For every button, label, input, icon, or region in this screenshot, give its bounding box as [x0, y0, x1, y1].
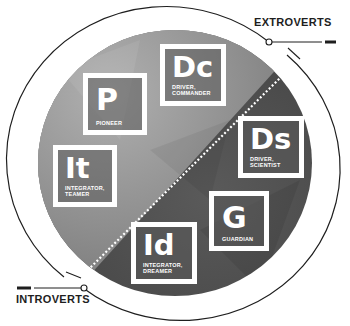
type-box-guardian[interactable]: G GUARDIAN	[209, 191, 269, 251]
type-name-line2: COMMANDER	[172, 90, 211, 96]
type-code: It	[65, 154, 90, 183]
extroverts-callout-bar	[325, 41, 336, 44]
type-box-pioneer[interactable]: P PIONEER	[83, 73, 147, 135]
type-code: Ds	[250, 125, 291, 154]
type-code: Id	[143, 231, 175, 260]
type-box-driver-commander[interactable]: Dc DRIVER, COMMANDER	[160, 44, 226, 106]
type-name-line2: DREAMER	[143, 268, 172, 274]
introverts-callout-dot	[81, 285, 87, 291]
type-box-integrator-dreamer[interactable]: Id INTEGRATOR, DREAMER	[131, 222, 197, 284]
type-name-line1: GUARDIAN	[222, 236, 253, 242]
type-box-integrator-teamer[interactable]: It INTEGRATOR, TEAMER	[53, 145, 117, 207]
extroverts-callout-dot	[266, 39, 272, 45]
introvert-bracket	[66, 272, 81, 278]
type-name-line1: PIONEER	[96, 120, 122, 126]
type-box-driver-scientist[interactable]: Ds DRIVER, SCIENTIST	[238, 116, 304, 178]
introverts-label: INTROVERTS	[16, 293, 90, 305]
introverts-callout-bar	[17, 287, 31, 290]
type-name-line2: TEAMER	[65, 191, 89, 197]
extroverts-label: EXTROVERTS	[254, 16, 332, 28]
type-name-line2: SCIENTIST	[250, 162, 281, 168]
type-code: G	[222, 203, 247, 233]
type-code: P	[96, 85, 118, 115]
type-code: Dc	[172, 53, 213, 82]
